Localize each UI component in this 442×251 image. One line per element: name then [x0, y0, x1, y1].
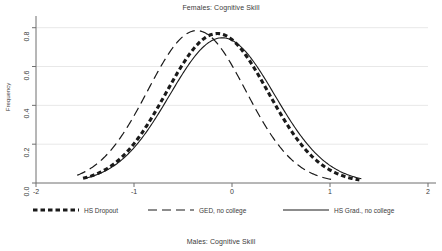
density-curve [85, 38, 361, 179]
axis-lines-group [36, 16, 436, 183]
y-tick-label: 0.6 [23, 65, 30, 85]
legend-item-long-dashed[interactable]: GED, no college [148, 203, 246, 217]
x-tick-label: 1 [320, 188, 340, 195]
tick-marks-group [32, 28, 428, 187]
x-tick-label: -2 [26, 188, 46, 195]
x-tick-label: -1 [124, 188, 144, 195]
legend-item-thick-dashed[interactable]: HS Dropout [33, 203, 118, 217]
legend-label: GED, no college [199, 207, 246, 214]
legend-swatch-long-dashed [148, 206, 194, 214]
y-tick-label: 0.2 [23, 143, 30, 163]
y-axis-label: Frequency [5, 75, 11, 119]
chart-caption: Males: Cognitive Skill [0, 238, 442, 245]
legend-label: HS Dropout [84, 207, 118, 214]
chart-figure: Females: Cognitive Skill Frequency 0.00.… [0, 0, 442, 251]
x-tick-label: 2 [418, 188, 438, 195]
legend-label: HS Grad., no college [334, 207, 394, 214]
y-tick-label: 0.8 [23, 26, 30, 46]
gridlines-group [36, 28, 428, 144]
y-tick-label: 0.4 [23, 104, 30, 124]
x-tick-label: 0 [222, 188, 242, 195]
legend-item-solid[interactable]: HS Grad., no college [283, 203, 394, 217]
legend-swatch-thick-dashed [33, 206, 79, 214]
chart-legend: HS DropoutGED, no collegeHS Grad., no co… [0, 203, 442, 219]
legend-swatch-solid [283, 206, 329, 214]
